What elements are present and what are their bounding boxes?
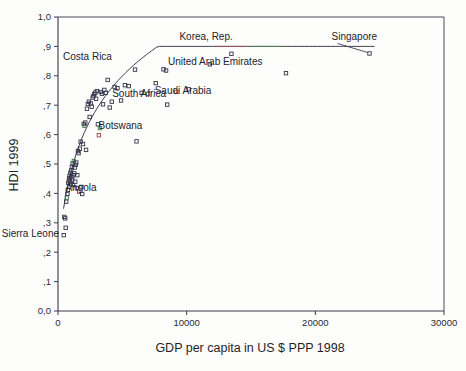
- x-tick-label: 10000: [173, 317, 199, 328]
- data-point: [64, 226, 67, 229]
- data-point: [85, 107, 88, 110]
- y-tick-label: ,8: [43, 70, 51, 81]
- y-tick-label: 1,0: [38, 11, 51, 22]
- data-point: [108, 106, 111, 109]
- chart-page: 0,0,1,2,3,4,5,6,7,8,91,00100002000030000…: [0, 0, 466, 371]
- data-point: [84, 148, 87, 151]
- y-tick-label: ,6: [43, 129, 51, 140]
- y-tick-label: ,3: [43, 217, 51, 228]
- x-axis-title: GDP per capita in US $ PPP 1998: [155, 341, 344, 355]
- data-point: [230, 52, 233, 55]
- y-tick-label: ,9: [43, 41, 51, 52]
- data-point: [284, 71, 287, 74]
- country-label: Singapore: [332, 31, 378, 42]
- country-label: Botswana: [99, 120, 143, 131]
- data-point: [119, 99, 122, 102]
- country-label: Costa Rica: [63, 51, 112, 62]
- country-label: Sierra Leone: [2, 228, 60, 239]
- y-tick-label: 0,0: [38, 305, 51, 316]
- data-point: [123, 84, 126, 87]
- data-point: [135, 140, 138, 143]
- scatter-chart: 0,0,1,2,3,4,5,6,7,8,91,00100002000030000…: [0, 0, 466, 371]
- data-point: [106, 78, 109, 81]
- y-axis-title: HDI 1999: [7, 139, 21, 192]
- data-point: [97, 133, 100, 136]
- data-point: [166, 103, 169, 106]
- data-point: [368, 52, 371, 55]
- country-label: United Arab Emirates: [168, 56, 262, 67]
- data-point: [133, 68, 136, 71]
- country-label: Angola: [65, 182, 97, 193]
- country-label: Korea, Rep.: [179, 31, 232, 42]
- x-tick-label: 0: [55, 317, 60, 328]
- y-tick-label: ,2: [43, 247, 51, 258]
- y-tick-label: ,1: [43, 276, 51, 287]
- country-label: South Africa: [112, 88, 166, 99]
- data-points: [62, 52, 371, 237]
- data-point: [81, 142, 84, 145]
- y-tick-label: ,4: [43, 188, 51, 199]
- y-tick-label: ,7: [43, 100, 51, 111]
- data-point: [101, 103, 104, 106]
- x-tick-label: 30000: [431, 317, 457, 328]
- y-tick-label: ,5: [43, 158, 51, 169]
- data-point: [62, 233, 65, 236]
- x-tick-label: 20000: [302, 317, 328, 328]
- data-point: [110, 100, 113, 103]
